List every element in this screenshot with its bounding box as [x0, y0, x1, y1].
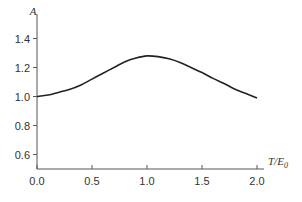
x-axis-title: T/E0: [268, 155, 288, 170]
x-tick-label: 1.0: [139, 175, 154, 187]
y-tick-label: 0.6: [15, 149, 30, 161]
y-tick-label: 0.8: [15, 120, 30, 132]
y-tick-label: 1.4: [15, 33, 30, 45]
data-curve: [37, 56, 257, 98]
x-tick-label: 1.5: [194, 175, 209, 187]
x-tick-label: 2.0: [249, 175, 264, 187]
x-tick-label: 0.5: [84, 175, 99, 187]
axes: [37, 14, 264, 169]
x-tick-label: 0.0: [29, 175, 44, 187]
y-axis-title: A: [29, 5, 37, 17]
x-ticks: 0.00.51.01.52.0: [29, 165, 264, 187]
chart: 0.60.81.01.21.4 0.00.51.01.52.0 A T/E0: [0, 0, 302, 202]
y-tick-label: 1.2: [15, 62, 30, 74]
y-ticks: 0.60.81.01.21.4: [15, 33, 37, 161]
y-tick-label: 1.0: [15, 91, 30, 103]
